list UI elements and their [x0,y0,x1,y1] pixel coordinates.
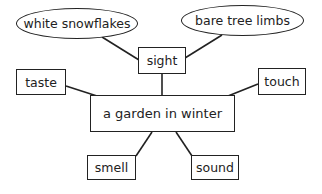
sense-label: touch [264,74,299,89]
sense-sound-box: sound [191,155,239,180]
sense-label: taste [25,75,57,90]
sense-smell-box: smell [87,155,136,180]
sense-taste-box: taste [16,69,66,95]
detail-label: white snowflakes [23,16,130,31]
detail-white-snowflakes: white snowflakes [16,8,138,39]
detail-bare-tree-limbs: bare tree limbs [181,5,304,36]
sense-sight-box: sight [138,47,186,74]
sense-label: sound [196,160,234,175]
sense-label: smell [95,160,128,175]
sense-touch-box: touch [258,68,306,95]
detail-label: bare tree limbs [195,13,290,28]
center-topic-box: a garden in winter [90,95,235,132]
sense-label: sight [147,53,178,68]
center-topic-label: a garden in winter [103,106,222,121]
